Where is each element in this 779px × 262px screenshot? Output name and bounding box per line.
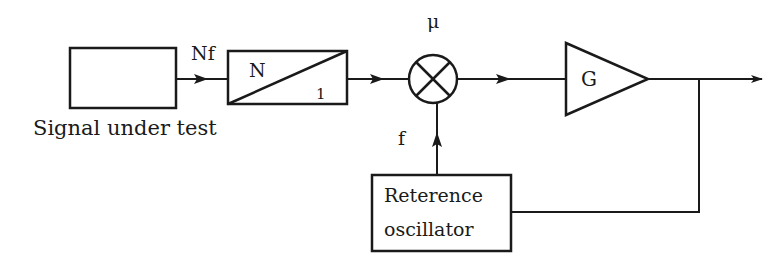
block-diagram: Signal under test Nf N 1 μ G: [0, 0, 779, 262]
oscillator-label-line2: oscillator: [384, 218, 474, 240]
signal-source-box: [70, 48, 176, 108]
mixer-label: μ: [427, 10, 439, 32]
amplifier-label: G: [581, 67, 597, 91]
frequency-divider-block: N 1: [228, 51, 347, 104]
reference-oscillator-block: Reterence oscillator: [372, 175, 511, 251]
mixer-to-amplifier-connection: [457, 74, 566, 84]
oscillator-label-line1: Reterence: [384, 184, 483, 206]
amplifier-triangle: [566, 43, 648, 115]
divider-to-mixer-connection: [347, 74, 409, 84]
input-connection: Nf: [176, 42, 228, 84]
signal-source-block: Signal under test: [33, 48, 217, 140]
oscillator-to-mixer-connection: f: [398, 103, 442, 175]
divider-numerator: N: [249, 59, 266, 81]
signal-source-label: Signal under test: [33, 116, 217, 140]
divider-diagonal: [228, 51, 347, 104]
amplifier-block: G: [566, 43, 648, 115]
divider-denominator: 1: [316, 85, 326, 103]
input-frequency-label: Nf: [191, 42, 217, 64]
reference-frequency-label: f: [398, 127, 407, 149]
mixer-block: μ: [409, 10, 457, 103]
